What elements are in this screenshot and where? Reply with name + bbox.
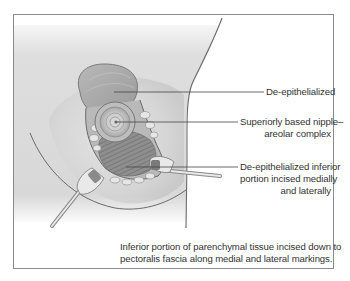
label-de-epithelialized: De-epithelialized [266, 86, 335, 98]
caption-line1: Inferior portion of parenchymal tissue i… [120, 241, 331, 253]
label-inferior-line1: De-epithelialized inferior [240, 161, 331, 173]
caption-line2: pectoralis fascia along medial and later… [120, 253, 331, 265]
label-nipple-areolar-complex: Superiorly based nipple– areolar complex [240, 116, 331, 140]
figure-caption: Inferior portion of parenchymal tissue i… [120, 241, 331, 265]
breast-reduction-illustration [0, 0, 350, 281]
label-inferior-line2: portion incised medially [240, 173, 331, 185]
label-nac-line1: Superiorly based nipple– [240, 116, 331, 128]
label-inferior-line3: and laterally [240, 185, 331, 197]
label-nac-line2: areolar complex [240, 128, 331, 140]
label-inferior-portion: De-epithelialized inferior portion incis… [240, 161, 331, 197]
